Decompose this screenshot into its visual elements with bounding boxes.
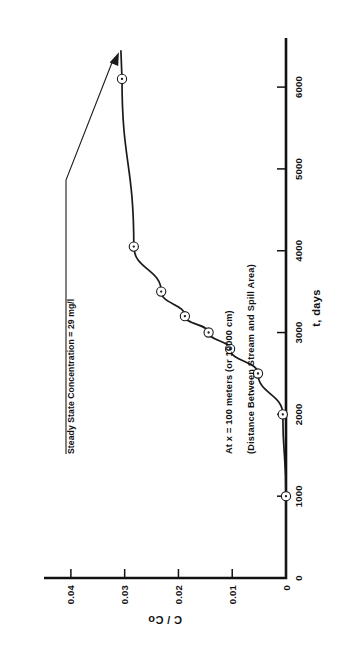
y-tick-label: 0 [281, 585, 292, 590]
y-tick-label: 0.01 [227, 584, 238, 604]
data-point-center [207, 331, 209, 333]
data-point-center [282, 413, 284, 415]
x-axis-tick-labels: 0100020003000400050006000 [293, 76, 304, 581]
chart-canvas: 0100020003000400050006000 00.010.020.030… [0, 0, 354, 650]
data-curve [121, 50, 286, 578]
y-tick-label: 0.04 [65, 584, 76, 604]
data-point-center [121, 78, 123, 80]
y-tick-label: 0.03 [119, 585, 130, 604]
steady-state-annotation: Steady State Concentration = 29 mg/l [66, 299, 76, 454]
data-point-markers [117, 74, 290, 501]
x-tick-label: 4000 [293, 240, 304, 262]
y-tick-label: 0.02 [173, 585, 184, 604]
y-axis-tick-labels: 00.010.020.030.04 [65, 584, 291, 604]
data-point-center [257, 372, 259, 374]
concentration-vs-time-chart: 0100020003000400050006000 00.010.020.030… [0, 0, 354, 650]
x-tick-label: 3000 [293, 322, 304, 344]
x-tick-label: 6000 [293, 76, 304, 98]
x-axis-ticks [277, 87, 286, 496]
y-axis-ticks [71, 569, 232, 578]
x-axis-title: t, days [310, 289, 322, 327]
data-point-center [184, 315, 186, 317]
data-point-center [160, 290, 162, 292]
x-tick-label: 5000 [293, 158, 304, 180]
y-axis-title: C / Co [148, 614, 182, 626]
x-tick-label: 1000 [293, 485, 304, 507]
figure-title-line-2: (Distance Between Stream and Spill Area) [246, 264, 256, 454]
x-tick-label: 2000 [293, 403, 304, 425]
figure-title-line-1: At x = 100 meters (or 10000 cm) [224, 310, 234, 454]
figure-stage: 0100020003000400050006000 00.010.020.030… [0, 0, 354, 650]
data-point-center [285, 495, 287, 497]
data-point-center [133, 245, 135, 247]
x-tick-label: 0 [293, 575, 304, 580]
